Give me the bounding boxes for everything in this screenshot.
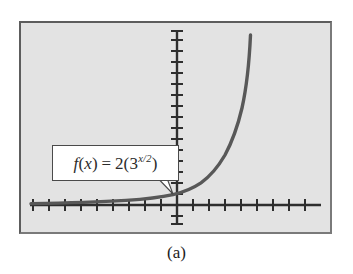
figure-container: f(x) = 2(3x/2) (a) [0,0,353,274]
plot-surface [21,23,330,232]
formula-callout-box: f(x) = 2(3x/2) [52,145,179,181]
graphing-calculator-screen: f(x) = 2(3x/2) [19,21,332,234]
figure-caption: (a) [0,243,353,263]
formula-label: f(x) = 2(3x/2) [73,153,157,174]
